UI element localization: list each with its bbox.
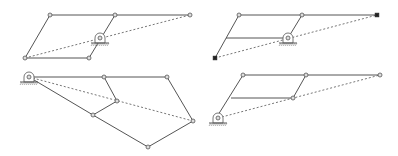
link-bar — [25, 15, 50, 58]
joint-icon — [191, 119, 195, 123]
tracing-point-icon — [375, 13, 379, 17]
panel-2 — [213, 13, 379, 60]
link-bar — [218, 75, 243, 115]
pantograph-diagram — [0, 0, 398, 156]
joint-icon — [241, 73, 245, 77]
joint-icon — [113, 13, 117, 17]
panel-3 — [20, 72, 195, 149]
ground-pivot-icon — [20, 72, 38, 85]
joint-icon — [146, 145, 150, 149]
joint-icon — [165, 75, 169, 79]
joint-icon — [304, 73, 308, 77]
joint-icon — [91, 113, 95, 117]
joint-icon — [87, 56, 91, 60]
joint-icon — [291, 96, 295, 100]
link-bar — [93, 115, 148, 147]
link-bar — [29, 77, 93, 115]
diagram-panels — [20, 13, 382, 149]
dashed-collinear-line — [215, 15, 377, 58]
joint-icon — [102, 75, 106, 79]
link-bar — [93, 101, 117, 115]
ground-pivot-icon — [91, 33, 109, 46]
dashed-collinear-line — [29, 77, 193, 121]
link-bar — [148, 121, 193, 147]
ground-pivot-icon — [279, 33, 297, 46]
joint-icon — [378, 73, 382, 77]
dashed-collinear-line — [25, 15, 190, 58]
joint-icon — [188, 13, 192, 17]
link-bar — [104, 77, 117, 101]
tracing-point-icon — [213, 56, 217, 60]
ground-pivot-icon — [209, 113, 227, 126]
joint-icon — [115, 99, 119, 103]
joint-icon — [237, 13, 241, 17]
joint-icon — [23, 56, 27, 60]
link-bar — [215, 15, 239, 58]
panel-4 — [209, 73, 382, 126]
dashed-collinear-line — [218, 75, 380, 118]
link-bar — [167, 77, 193, 121]
link-bar — [293, 75, 306, 98]
panel-1 — [23, 13, 192, 60]
joint-icon — [48, 13, 52, 17]
joint-icon — [300, 13, 304, 17]
